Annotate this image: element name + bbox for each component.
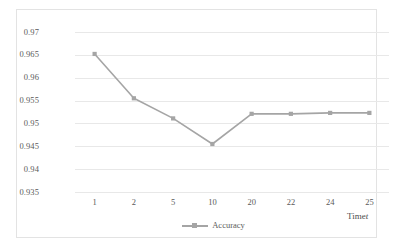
x-axis-title-main: Time	[347, 211, 366, 221]
data-point-marker	[250, 112, 254, 116]
data-point-marker	[93, 52, 97, 56]
data-point-marker	[328, 111, 332, 115]
y-axis-tick-label: 0.95	[24, 119, 39, 128]
x-axis-tick-label: 1	[93, 198, 97, 207]
x-axis-tick-label: 25	[365, 198, 374, 207]
y-axis-tick-label: 0.96	[24, 73, 39, 82]
chart-legend: Accuracy	[17, 221, 393, 230]
series-accuracy	[75, 32, 389, 192]
x-axis-title: Timet	[347, 211, 368, 221]
data-point-marker	[171, 116, 175, 120]
y-axis-tick-label: 0.935	[19, 188, 39, 197]
x-axis-title-variable: t	[366, 211, 369, 221]
legend-square-marker-icon	[192, 223, 197, 228]
y-axis-tick-label: 0.94	[24, 165, 39, 174]
x-axis-tick-label: 2	[132, 198, 136, 207]
y-axis-tick-label: 0.97	[24, 28, 39, 37]
legend-label-accuracy: Accuracy	[212, 221, 245, 230]
gridline	[75, 192, 389, 193]
x-axis-tick-label: 10	[208, 198, 217, 207]
y-axis-tick-label: 0.965	[19, 50, 39, 59]
legend-marker-icon	[182, 221, 208, 230]
y-axis-tick-label: 0.955	[19, 96, 39, 105]
x-axis-tick-label: 22	[287, 198, 296, 207]
chart-frame: 0.970.9650.960.9550.950.9450.940.935 125…	[16, 9, 377, 238]
x-axis-tick-label: 20	[247, 198, 256, 207]
y-axis-tick-label: 0.945	[19, 142, 39, 151]
x-axis-tick-label: 5	[171, 198, 175, 207]
plot-area	[75, 32, 389, 192]
data-point-marker	[367, 111, 371, 115]
data-point-marker	[289, 112, 293, 116]
data-point-marker	[132, 96, 136, 100]
x-axis-tick-label: 24	[326, 198, 335, 207]
data-point-marker	[210, 142, 214, 146]
chart-container: 0.970.9650.960.9550.950.9450.940.935 125…	[0, 0, 393, 249]
